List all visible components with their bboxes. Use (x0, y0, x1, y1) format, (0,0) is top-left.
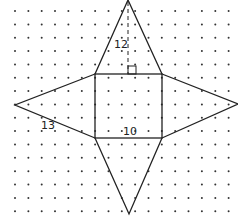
grid-dot (161, 10, 163, 12)
grid-dot (41, 90, 43, 92)
grid-dot (14, 210, 16, 212)
grid-dot (201, 77, 203, 79)
grid-dot (161, 50, 163, 52)
grid-dot (67, 10, 69, 12)
grid-dot (81, 63, 83, 65)
grid-dot (188, 157, 190, 159)
grid-dot (54, 184, 56, 186)
grid-dot (228, 184, 230, 186)
grid-dot (14, 157, 16, 159)
grid-dot (201, 23, 203, 25)
grid-dot (67, 50, 69, 52)
grid-dot (54, 50, 56, 52)
grid-dot (108, 104, 110, 106)
grid-dot (201, 184, 203, 186)
grid-dot (14, 170, 16, 172)
grid-dot (174, 144, 176, 146)
grid-dot (134, 50, 136, 52)
grid-dot (108, 197, 110, 199)
slant-height-label: 12 (114, 39, 128, 50)
grid-dot (54, 63, 56, 65)
grid-dot (214, 184, 216, 186)
grid-dot (27, 197, 29, 199)
grid-dot (148, 77, 150, 79)
grid-dot (108, 130, 110, 132)
grid-dot (41, 37, 43, 39)
grid-dot (14, 23, 16, 25)
grid-dot (121, 63, 123, 65)
grid-dot (94, 144, 96, 146)
grid-dot (27, 144, 29, 146)
triangle-side-label: 13 (41, 120, 55, 131)
grid-dot (67, 144, 69, 146)
grid-dot (67, 63, 69, 65)
grid-dot (121, 77, 123, 79)
grid-dot (94, 170, 96, 172)
grid-dot (188, 63, 190, 65)
grid-dot (201, 170, 203, 172)
grid-dot (188, 10, 190, 12)
grid-dot (121, 90, 123, 92)
grid-dot (201, 63, 203, 65)
grid-dot (134, 170, 136, 172)
grid-dot (41, 184, 43, 186)
grid-dot (27, 157, 29, 159)
grid-dot (228, 10, 230, 12)
base-side-label: 10 (123, 126, 137, 137)
grid-dot (134, 157, 136, 159)
grid-dot (228, 117, 230, 119)
grid-dot (201, 210, 203, 212)
grid-dot (228, 37, 230, 39)
grid-dot (54, 37, 56, 39)
grid-dot (201, 157, 203, 159)
grid-dot (108, 210, 110, 212)
grid-dot (14, 184, 16, 186)
grid-dot (148, 210, 150, 212)
grid-dot (161, 157, 163, 159)
grid-dot (228, 157, 230, 159)
grid-dot (121, 104, 123, 106)
grid-dot (148, 130, 150, 132)
grid-dot (214, 104, 216, 106)
grid-dot (148, 90, 150, 92)
grid-dot (108, 90, 110, 92)
grid-dot (81, 23, 83, 25)
grid-dot (27, 170, 29, 172)
grid-dot (214, 170, 216, 172)
grid-dot (174, 157, 176, 159)
grid-dot (41, 63, 43, 65)
grid-dot (174, 104, 176, 106)
grid-dot (41, 197, 43, 199)
grid-dot (134, 184, 136, 186)
grid-dot (228, 90, 230, 92)
grid-dot (41, 144, 43, 146)
grid-dot (54, 170, 56, 172)
grid-dot (94, 50, 96, 52)
grid-dot (188, 50, 190, 52)
grid-dot (27, 37, 29, 39)
grid-dot (54, 77, 56, 79)
grid-dot (161, 197, 163, 199)
grid-dot (94, 37, 96, 39)
grid-dot (174, 197, 176, 199)
grid-dot (54, 10, 56, 12)
grid-dot (148, 23, 150, 25)
grid-dot (41, 77, 43, 79)
grid-dot (121, 144, 123, 146)
grid-dot (27, 23, 29, 25)
grid-dot (81, 157, 83, 159)
grid-dot (174, 184, 176, 186)
grid-dot (108, 23, 110, 25)
grid-dot (108, 157, 110, 159)
grid-dot (214, 157, 216, 159)
grid-dot (228, 104, 230, 106)
grid-dot (188, 130, 190, 132)
grid-dot (94, 23, 96, 25)
grid-dot (121, 170, 123, 172)
grid-dot (108, 10, 110, 12)
grid-dot (148, 10, 150, 12)
grid-dot (134, 10, 136, 12)
pyramid-net-diagram (0, 0, 238, 216)
grid-dot (14, 37, 16, 39)
grid-dot (94, 10, 96, 12)
